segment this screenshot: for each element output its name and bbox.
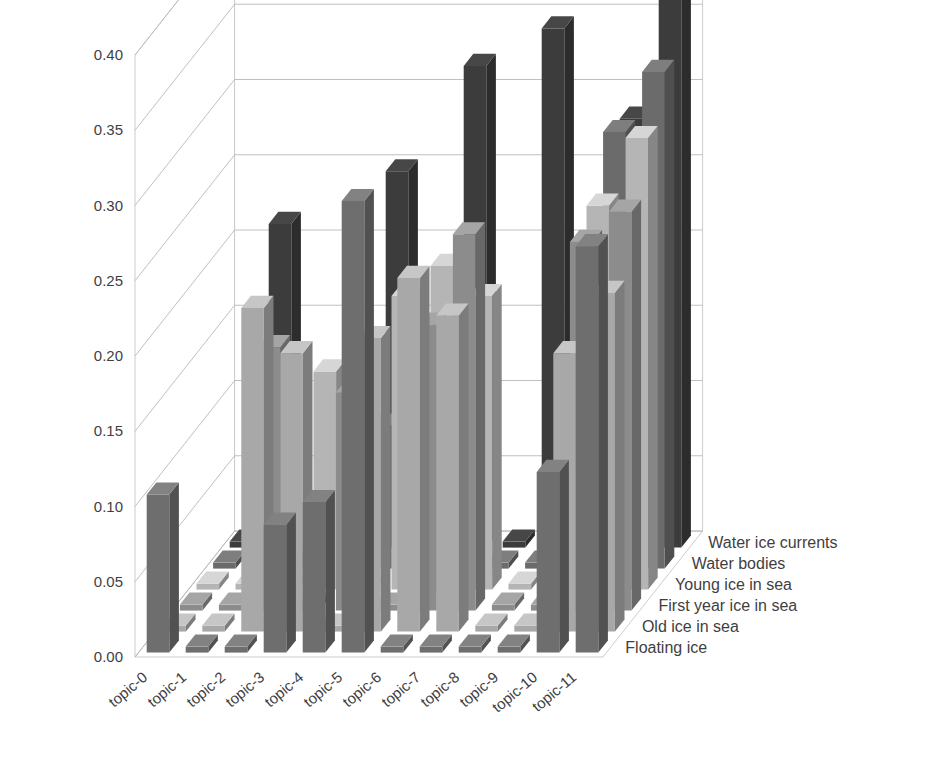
bar-front-face [186,647,209,653]
category-label-topic-8: topic-8 [417,668,462,710]
category-label-topic-2: topic-2 [183,668,228,710]
bar-side-face [598,234,608,652]
bar-side-face [364,189,374,653]
value-axis-tick-label: 0.40 [94,46,123,63]
bar-front-face [197,584,220,590]
bar-4-0[interactable] [303,490,335,653]
value-axis-tick-label: 0.10 [94,498,123,515]
bar-front-face [576,246,599,652]
bar-11-0[interactable] [576,234,608,652]
value-axis-tick-label: 0.30 [94,197,123,214]
category-label-topic-1: topic-1 [144,668,189,710]
series-label-water-bodies: Water bodies [692,555,786,572]
category-label-topic-0: topic-0 [105,668,150,710]
bar-side-face [459,303,469,631]
value-axis-tick-label: 0.25 [94,272,123,289]
bar-front-face [303,502,326,652]
bar-front-face [381,647,404,653]
value-axis-tick-label: 0.15 [94,422,123,439]
bar-front-face [492,605,515,611]
bar-front-face [225,647,248,653]
bar-0-0[interactable] [147,482,179,652]
series-label-old-ice-in-sea: Old ice in sea [642,618,739,635]
series-label-first-year-ice-in-sea: First year ice in sea [659,597,798,614]
bar-front-face [436,316,459,632]
bar-front-face [503,542,526,548]
bar-side-face [665,60,675,569]
category-label-topic-6: topic-6 [339,668,384,710]
bar-front-face [498,647,521,653]
bar-7-1[interactable] [436,303,468,631]
bar-front-face [397,278,420,632]
bar-side-face [420,266,430,632]
bar-front-face [342,201,365,652]
bar-front-face [514,626,537,632]
category-label-topic-3: topic-3 [222,668,267,710]
category-label-topic-11: topic-11 [528,668,579,715]
category-label-topic-7: topic-7 [378,668,423,710]
bar-front-face [475,626,498,632]
bar-front-face [180,605,203,611]
bar-side-face [648,126,658,590]
bar-5-0[interactable] [342,189,374,653]
chart-canvas: 0.000.050.100.150.200.250.300.350.40 top… [0,0,938,769]
category-label-topic-4: topic-4 [261,668,306,710]
bar-front-face [241,308,264,632]
bar-side-face [559,460,569,653]
bar-10-0[interactable] [537,460,569,653]
bar-front-face [264,525,287,653]
bar-6-1[interactable] [397,266,429,632]
bar-front-face [219,605,242,611]
bar-side-face [632,200,642,611]
bar-front-face [213,563,236,569]
bar-front-face [202,626,225,632]
bar-side-face [492,284,502,590]
bar-side-face [615,281,625,632]
bar-front-face [147,495,170,653]
value-axis-tick-label: 0.20 [94,347,123,364]
series-label-floating-ice: Floating ice [625,639,707,656]
bar-front-face [509,584,532,590]
value-axis-tick-label: 0.05 [94,573,123,590]
series-label-water-ice-currents: Water ice currents [708,534,837,551]
bar-front-face [537,472,560,653]
category-label-topic-5: topic-5 [300,668,345,710]
value-axis-tick-label: 0.00 [94,648,123,665]
bar-side-face [286,513,296,653]
bar-3-0[interactable] [264,513,296,653]
bar-side-face [476,222,486,610]
bar-side-face [381,326,391,632]
series-label-young-ice-in-sea: Young ice in sea [675,576,792,593]
bar-front-face [420,647,443,653]
value-axis-ticks: 0.000.050.100.150.200.250.300.350.40 [94,46,123,665]
bar-front-face [459,647,482,653]
bar-side-face [681,0,691,548]
three-d-bar-chart: 0.000.050.100.150.200.250.300.350.40 top… [0,0,938,769]
bar-side-face [169,482,179,652]
bar-side-face [325,490,335,653]
category-axis-labels: topic-0topic-1topic-2topic-3topic-4topic… [105,668,579,715]
value-axis-tick-label: 0.35 [94,121,123,138]
